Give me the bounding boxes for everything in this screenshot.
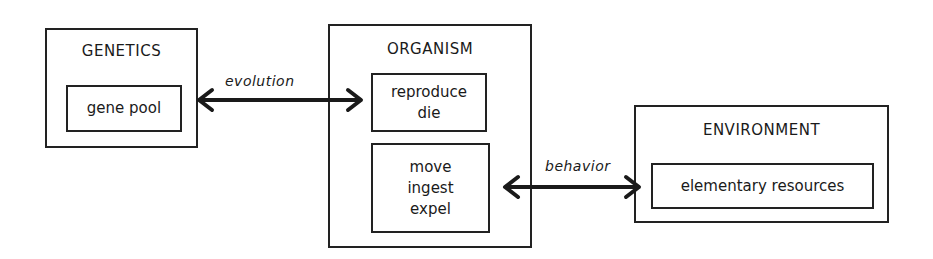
ingest-label: ingest [407, 178, 453, 199]
elementary-resources-label: elementary resources [681, 176, 845, 197]
die-label: die [418, 103, 441, 124]
behavior-label: behavior [545, 158, 610, 174]
reproduce-die-box: reproduce die [371, 73, 487, 132]
move-label: move [410, 157, 452, 178]
genetics-title: GENETICS [47, 42, 196, 60]
organism-box: ORGANISM reproduce die move ingest expel [328, 24, 532, 248]
expel-label: expel [410, 199, 451, 220]
behavior-double-arrow-icon [502, 175, 642, 199]
elementary-resources-box: elementary resources [651, 163, 874, 209]
gene-pool-box: gene pool [66, 85, 182, 132]
genetics-box: GENETICS gene pool [45, 28, 198, 148]
move-ingest-expel-box: move ingest expel [371, 143, 490, 233]
environment-title: ENVIRONMENT [636, 121, 887, 139]
organism-title: ORGANISM [330, 40, 530, 58]
evolution-label: evolution [225, 73, 295, 89]
reproduce-label: reproduce [391, 82, 467, 103]
environment-box: ENVIRONMENT elementary resources [634, 105, 889, 223]
gene-pool-label: gene pool [87, 98, 161, 119]
evolution-double-arrow-icon [196, 88, 364, 112]
